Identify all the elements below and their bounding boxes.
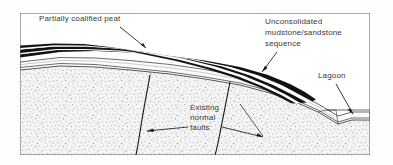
label-partially-coalified-peat: Partially coalified peat bbox=[39, 14, 121, 23]
label-unconsolidated-line1: Unconsolidated bbox=[265, 17, 322, 26]
label-lagoon: Lagoon bbox=[318, 71, 346, 80]
label-unconsolidated-line2: mudstone/sandstone bbox=[265, 28, 342, 37]
cross-section-drawing: Partially coalified peat Unconsolidated … bbox=[0, 0, 393, 165]
label-existing-faults-line3: faults bbox=[190, 123, 210, 132]
label-existing-faults-line2: normal bbox=[190, 113, 215, 122]
label-unconsolidated-line3: sequence bbox=[265, 39, 301, 48]
geological-cross-section-figure: Partially coalified peat Unconsolidated … bbox=[0, 0, 393, 165]
label-existing-faults-line1: Existing bbox=[190, 103, 219, 112]
